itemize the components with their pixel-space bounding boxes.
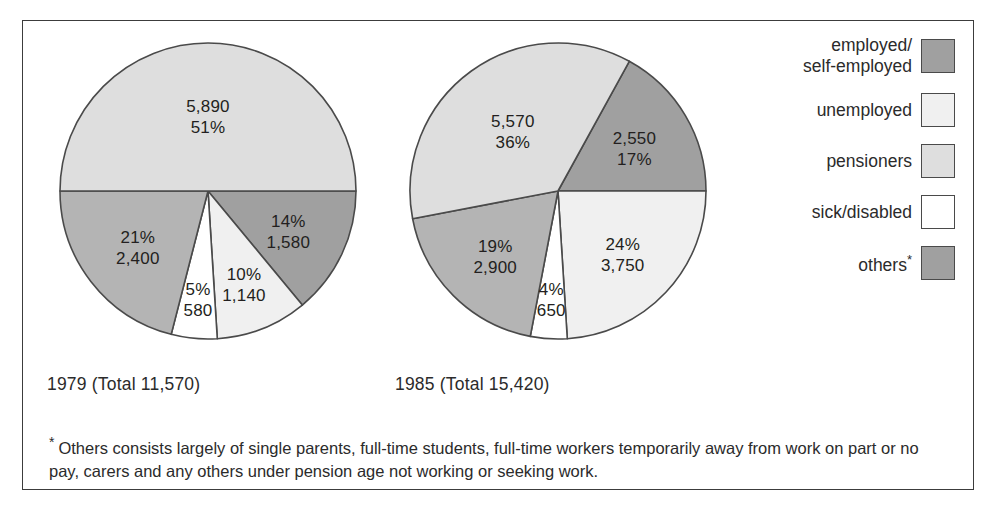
figure-frame: 14%1,58010%1,1405%58021%2,4005,89051% 19… — [22, 20, 974, 490]
legend-item[interactable]: others* — [755, 246, 955, 280]
pie-1985-svg: 2,55017%24%3,7504%65019%2,9005,57036% — [393, 29, 723, 359]
legend: employed/ self-employedunemployedpension… — [755, 35, 955, 297]
legend-item[interactable]: pensioners — [755, 144, 955, 178]
legend-color-swatch — [921, 39, 955, 73]
legend-item-label: unemployed — [817, 100, 921, 121]
legend-item[interactable]: sick/disabled — [755, 195, 955, 229]
pie-1979-svg: 14%1,58010%1,1405%58021%2,4005,89051% — [43, 29, 373, 359]
legend-color-swatch — [921, 144, 955, 178]
footnote-text: Others consists largely of single parent… — [49, 439, 919, 480]
charts-area: 14%1,58010%1,1405%58021%2,4005,89051% 19… — [23, 21, 793, 403]
legend-item-label: sick/disabled — [812, 202, 921, 223]
pie-chart-1985: 2,55017%24%3,7504%65019%2,9005,57036% — [393, 29, 723, 359]
legend-item-label: pensioners — [826, 151, 921, 172]
legend-color-swatch — [921, 246, 955, 280]
pie-slice — [60, 43, 356, 191]
legend-item-label: others* — [858, 252, 921, 275]
legend-item-label: employed/ self-employed — [803, 35, 921, 76]
pie-1985-caption: 1985 (Total 15,420) — [395, 374, 550, 395]
pie-1979-caption: 1979 (Total 11,570) — [47, 374, 200, 395]
pie-chart-1979: 14%1,58010%1,1405%58021%2,4005,89051% — [43, 29, 373, 359]
legend-item[interactable]: employed/ self-employed — [755, 35, 955, 76]
legend-item[interactable]: unemployed — [755, 93, 955, 127]
footnote-marker: * — [49, 434, 54, 450]
legend-color-swatch — [921, 93, 955, 127]
legend-color-swatch — [921, 195, 955, 229]
footnote-star-icon: * — [907, 252, 912, 267]
footnote: *Others consists largely of single paren… — [49, 433, 949, 483]
